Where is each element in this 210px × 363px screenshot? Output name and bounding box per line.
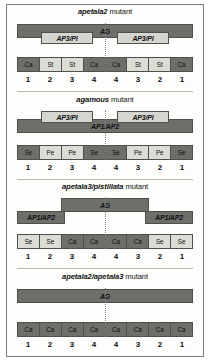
whorl-number: 2	[39, 75, 61, 84]
whorl-number: 2	[149, 340, 171, 349]
organ-cell: Se	[149, 235, 171, 248]
organ-label: Se	[178, 238, 186, 245]
organ-label: Ca	[178, 61, 186, 68]
gene-domain-ap3-pi: AP3/PI	[117, 32, 169, 44]
organ-label: Se	[178, 149, 186, 156]
whorl-number: 1	[17, 252, 39, 261]
whorl-number: 1	[171, 75, 193, 84]
organ-cell: Pe	[62, 146, 84, 159]
panel-title-suffix: mutant	[123, 182, 148, 191]
panel-title-genotype: apetala2/apetala3	[62, 272, 123, 281]
figure-frame: apetala2 mutantAGAP3/PIAP3/PICaStStCaCaS…	[6, 4, 204, 357]
whorl-number: 1	[17, 163, 39, 172]
organ-cell: Ca	[171, 323, 192, 336]
panel-title-genotype: agamous	[76, 95, 109, 104]
organ-cell: Ca	[18, 58, 40, 71]
organ-label: St	[157, 61, 163, 68]
organ-label: Ca	[178, 326, 186, 333]
whorl-number: 4	[83, 252, 105, 261]
organ-cell: St	[149, 58, 171, 71]
organ-cell: Ca	[106, 235, 128, 248]
organ-label: Se	[47, 238, 55, 245]
organ-cell: Ca	[106, 58, 128, 71]
organ-label: Ca	[68, 238, 76, 245]
whorl-number: 3	[127, 252, 149, 261]
panel-title: apetala2/apetala3 mutant	[7, 272, 203, 282]
organ-label: Se	[156, 238, 164, 245]
organ-label: Se	[25, 238, 33, 245]
gene-label: AP1/AP2	[155, 214, 183, 221]
organ-label: St	[135, 61, 141, 68]
gene-label: AP3/PI	[133, 114, 154, 121]
organ-cell: Se	[18, 146, 40, 159]
organ-cell: St	[40, 58, 62, 71]
whorl-number: 4	[105, 340, 127, 349]
organ-label: Pe	[156, 149, 164, 156]
whorl-number: 3	[61, 252, 83, 261]
organ-cell: Se	[84, 146, 106, 159]
panel-title-genotype: apetala3/pistillata	[62, 182, 123, 191]
organ-label: Pe	[47, 149, 55, 156]
whorl-number-row: 12344321	[17, 252, 193, 261]
whorl-number: 3	[61, 163, 83, 172]
organ-cell: Pe	[149, 146, 171, 159]
organ-cell: Ca	[106, 323, 128, 336]
whorl-number: 4	[83, 163, 105, 172]
organ-cell: Se	[106, 146, 128, 159]
whorl-number: 2	[149, 163, 171, 172]
organ-label: Ca	[90, 61, 98, 68]
gene-label: AP3/PI	[57, 35, 78, 42]
panel-title-genotype: apetala2	[78, 7, 108, 16]
whorl-number: 4	[105, 75, 127, 84]
gene-label: AP1/AP2	[27, 214, 55, 221]
whorl-number: 1	[17, 340, 39, 349]
organ-label: Ca	[46, 326, 54, 333]
whorl-number-row: 12344321	[17, 75, 193, 84]
organ-cell: Se	[171, 146, 192, 159]
organ-label: Ca	[90, 238, 98, 245]
organ-cell: Se	[40, 235, 62, 248]
organ-label: Ca	[24, 61, 32, 68]
organ-cell: Ca	[149, 323, 171, 336]
whorl-number: 4	[83, 75, 105, 84]
organ-cell: Ca	[62, 323, 84, 336]
floral-midline	[105, 23, 106, 72]
floral-midline	[105, 288, 106, 337]
whorl-number: 2	[39, 252, 61, 261]
organ-label: Ca	[112, 61, 120, 68]
gene-domain-ap3-pi: AP3/PI	[117, 111, 169, 123]
organ-label: Ca	[112, 238, 120, 245]
panel-title: apetala3/pistillata mutant	[7, 182, 203, 192]
panel-title: agamous mutant	[7, 95, 203, 105]
whorl-number: 3	[61, 75, 83, 84]
organ-cell: Ca	[18, 323, 40, 336]
panel-title-suffix: mutant	[107, 7, 132, 16]
panel-title-suffix: mutant	[109, 95, 134, 104]
organ-label: Ca	[68, 326, 76, 333]
organ-cell: St	[62, 58, 84, 71]
organ-label: Ca	[134, 238, 142, 245]
panel-divider	[17, 179, 193, 180]
panel-agamous: agamous mutantAP1/AP2AP3/PIAP3/PISePePeS…	[7, 95, 203, 105]
organ-label: Se	[112, 149, 120, 156]
organ-cell: Ca	[84, 58, 106, 71]
organ-label: Se	[90, 149, 98, 156]
whorl-number: 3	[127, 75, 149, 84]
panel-divider	[17, 268, 193, 269]
organ-cell: Pe	[127, 146, 149, 159]
whorl-number: 3	[127, 163, 149, 172]
organ-label: St	[47, 61, 53, 68]
floral-midline	[105, 110, 106, 160]
whorl-number: 2	[39, 340, 61, 349]
organ-cell: Ca	[127, 235, 149, 248]
gene-domain-ap1-ap2: AP1/AP2	[145, 211, 193, 224]
panel-title-suffix: mutant	[123, 272, 148, 281]
panel-apetala2: apetala2 mutantAGAP3/PIAP3/PICaStStCaCaS…	[7, 7, 203, 17]
whorl-number: 3	[61, 340, 83, 349]
organ-cell: Ca	[40, 323, 62, 336]
panel-title: apetala2 mutant	[7, 7, 203, 17]
whorl-number: 2	[149, 252, 171, 261]
floral-midline	[105, 197, 106, 249]
organ-cell: Ca	[171, 58, 192, 71]
whorl-number-row: 12344321	[17, 163, 193, 172]
